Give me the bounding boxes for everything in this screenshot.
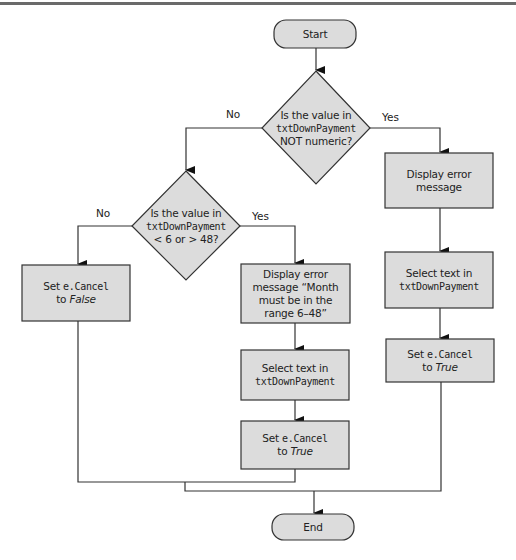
numeric-select-code: txtDownPayment <box>399 280 479 293</box>
connector-decision1-yes <box>370 128 440 152</box>
decision-not-numeric-line3: NOT numeric? <box>280 135 352 148</box>
decision-out-of-range-yes-label: Yes <box>252 210 269 222</box>
range-set-true-to: to <box>277 445 290 457</box>
decision-out-of-range-no-label: No <box>96 207 110 219</box>
set-false-code: e.Cancel <box>63 281 109 292</box>
set-false-prefix: Set <box>43 280 63 292</box>
process-set-false-text: Set e.Cancel to False <box>22 265 130 321</box>
process-numeric-error-text: Display error message <box>405 153 473 208</box>
set-false-value: False <box>69 293 95 305</box>
process-numeric-set-true-text: Set e.Cancel to True <box>386 339 494 382</box>
process-range-select-text: Select text in txtDownPayment <box>241 350 349 400</box>
end-label: End <box>272 514 354 540</box>
range-set-true-value: True <box>291 445 313 457</box>
process-range-set-true-text: Set e.Cancel to True <box>241 421 349 469</box>
connector-decision1-no <box>186 128 262 170</box>
start-label: Start <box>274 20 356 48</box>
decision-not-numeric-yes-label: Yes <box>382 111 399 123</box>
decision-not-numeric-text: Is the value in txtDownPayment NOT numer… <box>262 108 370 148</box>
range-select-code: txtDownPayment <box>255 375 335 388</box>
process-numeric-select-text: Select text in txtDownPayment <box>385 252 493 308</box>
set-false-to: to <box>56 293 69 305</box>
decision-not-numeric-no-label: No <box>226 108 240 120</box>
decision-out-of-range-code: txtDownPayment <box>146 220 226 233</box>
numeric-select-line1: Select text in <box>406 267 473 280</box>
numeric-set-true-to: to <box>422 361 435 373</box>
numeric-set-true-code: e.Cancel <box>427 349 473 360</box>
numeric-set-true-prefix: Set <box>407 348 427 360</box>
process-range-error-text: Display error message “Month must be in … <box>245 264 346 323</box>
range-select-line1: Select text in <box>262 362 329 375</box>
connector-decision2-yes <box>240 226 295 263</box>
decision-out-of-range-text: Is the value in txtDownPayment < 6 or > … <box>132 206 240 246</box>
numeric-set-true-value: True <box>436 361 458 373</box>
decision-not-numeric-code: txtDownPayment <box>276 122 356 135</box>
range-set-true-code: e.Cancel <box>282 433 328 444</box>
decision-out-of-range-line1: Is the value in <box>150 207 221 220</box>
connector-decision2-no <box>78 226 132 264</box>
decision-not-numeric-line1: Is the value in <box>280 109 351 122</box>
decision-out-of-range-line3: < 6 or > 48? <box>154 233 219 246</box>
range-set-true-prefix: Set <box>262 432 282 444</box>
